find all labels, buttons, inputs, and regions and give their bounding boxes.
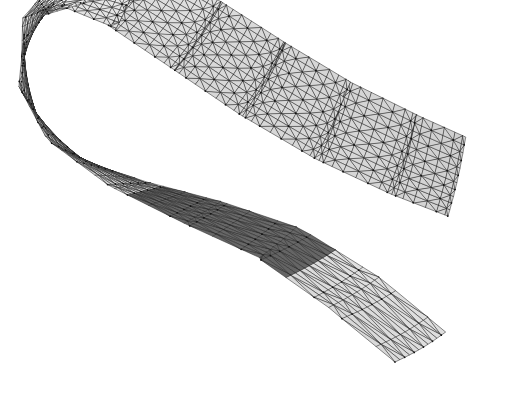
- mesh-vertex-dot: [83, 2, 85, 4]
- mesh-vertex-dot: [346, 89, 348, 91]
- mesh-vertex-dot: [414, 122, 416, 124]
- mesh-vertex-dot: [127, 194, 129, 196]
- mesh-vertex-dot: [22, 72, 24, 74]
- mesh-vertex-dot: [413, 352, 415, 354]
- mesh-vertex-dot: [446, 170, 448, 172]
- mesh-vertex-dot: [274, 100, 276, 102]
- mesh-vertex-dot: [410, 138, 412, 140]
- mesh-vertex-dot: [212, 42, 214, 44]
- mesh-vertex-dot: [260, 92, 262, 94]
- mesh-vertex-dot: [358, 269, 360, 271]
- mesh-vertex-dot: [125, 4, 127, 6]
- mesh-vertex-dot: [196, 221, 198, 223]
- mesh-vertex-dot: [105, 168, 107, 170]
- mesh-vertex-dot: [58, 146, 60, 148]
- mesh-vertex-dot: [435, 211, 437, 213]
- mesh-vertex-dot: [315, 124, 317, 126]
- mesh-vertex-dot: [443, 184, 445, 186]
- mesh-vertex-dot: [320, 145, 322, 147]
- mesh-vertex-dot: [322, 111, 324, 113]
- mesh-vertex-dot: [268, 228, 270, 230]
- mesh-vertex-dot: [396, 165, 398, 167]
- mesh-vertex-dot: [280, 138, 282, 140]
- mesh-vertex-dot: [181, 22, 183, 24]
- mesh-vertex-dot: [107, 184, 109, 186]
- mesh-vertex-dot: [332, 286, 334, 288]
- mesh-vertex-dot: [381, 298, 383, 300]
- mesh-vertex-dot: [407, 153, 409, 155]
- mesh-vertex-dot: [48, 6, 50, 8]
- mesh-vertex-dot: [271, 62, 273, 64]
- mesh-vertex-dot: [390, 293, 392, 295]
- mesh-vertex-dot: [46, 11, 48, 13]
- mesh-vertex-dot: [27, 100, 29, 102]
- mesh-vertex-dot: [25, 75, 27, 77]
- mesh-vertex-dot: [31, 14, 33, 16]
- mesh-vertex-dot: [35, 26, 37, 28]
- mesh-vertex-dot: [53, 3, 55, 5]
- mesh-vertex-dot: [192, 47, 194, 49]
- mesh-vertex-dot: [394, 361, 396, 363]
- mesh-vertex-dot: [48, 134, 50, 136]
- mesh-vertex-dot: [217, 209, 219, 211]
- mesh-vertex-dot: [42, 9, 44, 11]
- mesh-vertex-dot: [137, 182, 139, 184]
- mesh-vertex-dot: [260, 259, 262, 261]
- mesh-vertex-dot: [133, 9, 135, 11]
- mesh-vertex-dot: [37, 121, 39, 123]
- mesh-vertex-dot: [399, 182, 401, 184]
- mesh-vertex-dot: [447, 215, 449, 217]
- mesh-vertex-dot: [66, 7, 68, 9]
- mesh-vertex-dot: [174, 69, 176, 71]
- mesh-vertex-dot: [348, 158, 350, 160]
- mesh-vertex-dot: [240, 248, 242, 250]
- mesh-vertex-dot: [454, 189, 456, 191]
- mesh-vertex-dot: [26, 41, 28, 43]
- mesh-vertex-dot: [74, 10, 76, 12]
- mesh-vertex-dot: [340, 104, 342, 106]
- mesh-vertex-dot: [147, 189, 149, 191]
- mesh-vertex-dot: [73, 152, 75, 154]
- mesh-vertex-dot: [430, 129, 432, 131]
- mesh-vertex-dot: [371, 304, 373, 306]
- mesh-vertex-dot: [423, 346, 425, 348]
- mesh-vertex-dot: [281, 86, 283, 88]
- mesh-vertex-dot: [111, 170, 113, 172]
- mesh-vertex-dot: [412, 202, 414, 204]
- mesh-vertex-dot: [306, 236, 308, 238]
- mesh-vertex-dot: [295, 58, 297, 60]
- mesh-vertex-dot: [270, 255, 272, 257]
- mesh-vertex-dot: [440, 334, 442, 336]
- mesh-vertex-dot: [279, 250, 281, 252]
- mesh-vertex-dot: [41, 127, 43, 129]
- mesh-vertex-dot: [203, 199, 205, 201]
- mesh-vertex-dot: [154, 56, 156, 58]
- mesh-vertex-dot: [238, 113, 240, 115]
- mesh-vertex-dot: [31, 30, 33, 32]
- mesh-vertex-dot: [353, 144, 355, 146]
- mesh-vertex-dot: [382, 141, 384, 143]
- mesh-vertex-dot: [254, 238, 256, 240]
- mesh-vertex-dot: [213, 79, 215, 81]
- mesh-vertex-dot: [372, 169, 374, 171]
- mesh-vertex-dot: [315, 70, 317, 72]
- mesh-vertex-dot: [204, 90, 206, 92]
- mesh-vertex-dot: [263, 76, 265, 78]
- mesh-vertex-dot: [38, 22, 40, 24]
- mesh-vertex-dot: [404, 357, 406, 359]
- mesh-vertex-dot: [322, 162, 324, 164]
- mesh-vertex-dot: [367, 182, 369, 184]
- mesh-vertex-dot: [152, 21, 154, 23]
- mesh-vertex-dot: [43, 6, 45, 8]
- mesh-vertex-dot: [255, 89, 257, 91]
- mesh-vertex-dot: [358, 130, 360, 132]
- mesh-vertex-dot: [32, 108, 34, 110]
- mesh-vertex-dot: [295, 112, 297, 114]
- mesh-vertex-dot: [424, 160, 426, 162]
- mesh-vertex-dot: [258, 53, 260, 55]
- mesh-vertex-dot: [41, 17, 43, 19]
- mesh-vertex-dot: [223, 205, 225, 207]
- mesh-vertex-dot: [37, 12, 39, 14]
- mesh-vertex-dot: [142, 32, 144, 34]
- mesh-vertex-dot: [116, 14, 118, 16]
